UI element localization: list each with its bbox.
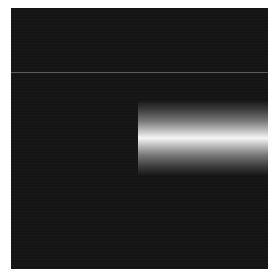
dark-field [11,8,268,269]
image-canvas [0,0,279,279]
faint-horizontal-line [11,72,268,73]
light-beam-gradient [138,100,268,176]
